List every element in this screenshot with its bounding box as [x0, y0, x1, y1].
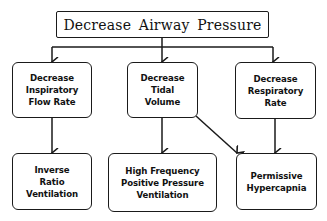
arrow-tv-to-hypercapnia	[196, 116, 237, 153]
node-decrease-inspiratory-flow-rate: Decrease Inspiratory Flow Rate	[12, 62, 92, 118]
node-high-frequency-ppv: High Frequency Positive Pressure Ventila…	[108, 153, 217, 212]
node-inverse-ratio-ventilation: Inverse Ratio Ventilation	[12, 153, 92, 210]
node-label: Decrease Respiratory Rate	[248, 73, 303, 109]
node-label: Decrease Inspiratory Flow Rate	[26, 72, 78, 108]
node-label: High Frequency Positive Pressure Ventila…	[121, 165, 204, 201]
node-label: Decrease Tidal Volume	[140, 72, 184, 108]
airway-pressure-flowchart: Decrease Airway Pressure Decrease Inspir…	[0, 0, 327, 221]
node-label: Inverse Ratio Ventilation	[26, 164, 78, 200]
root-node-decrease-airway-pressure: Decrease Airway Pressure	[56, 11, 269, 38]
node-decrease-respiratory-rate: Decrease Respiratory Rate	[235, 62, 316, 119]
node-decrease-tidal-volume: Decrease Tidal Volume	[127, 62, 198, 118]
node-label: Permissive Hypercapnia	[247, 170, 307, 194]
node-permissive-hypercapnia: Permissive Hypercapnia	[236, 153, 317, 210]
node-label: Decrease Airway Pressure	[63, 17, 261, 33]
